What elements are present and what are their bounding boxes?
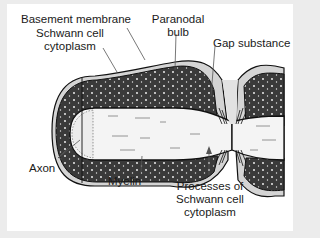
label-processes-line3: cytoplasm bbox=[170, 206, 250, 219]
label-paranodal-line1: Paranodal bbox=[150, 13, 206, 26]
label-paranodal-line2: bulb bbox=[150, 26, 206, 39]
label-basement-membrane: Basement membrane bbox=[21, 13, 131, 26]
label-paranodal-bulb: Paranodal bulb bbox=[150, 13, 206, 39]
label-myelin: Myelin bbox=[108, 175, 141, 188]
label-processes: Processes of Schwann cell cytoplasm bbox=[170, 180, 250, 219]
left-internode bbox=[52, 61, 232, 187]
label-axon: Axon bbox=[29, 162, 55, 175]
label-processes-line2: Schwann cell bbox=[170, 193, 250, 206]
label-schwann-cytoplasm-line2: cytoplasm bbox=[35, 40, 105, 53]
label-schwann-cytoplasm-line1: Schwann cell bbox=[35, 27, 105, 40]
label-gap-substance: Gap substance bbox=[213, 37, 290, 50]
right-internode bbox=[232, 65, 284, 196]
label-schwann-cytoplasm: Schwann cell cytoplasm bbox=[35, 27, 105, 53]
label-processes-line1: Processes of bbox=[170, 180, 250, 193]
